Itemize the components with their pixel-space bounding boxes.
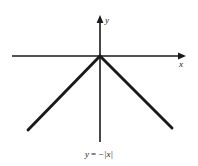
y-axis-label: y [105,16,109,25]
curve-right-ray [100,56,172,128]
curve-left-ray [28,56,100,130]
x-axis-label: x [179,60,183,69]
coordinate-plot [0,0,198,166]
graph-figure: y x y=−|x| [0,0,198,166]
caption-rhs: −|x| [98,149,113,159]
figure-caption: y=−|x| [0,150,198,160]
caption-equals-sign: = [89,149,98,159]
y-axis-arrowhead [97,15,104,23]
